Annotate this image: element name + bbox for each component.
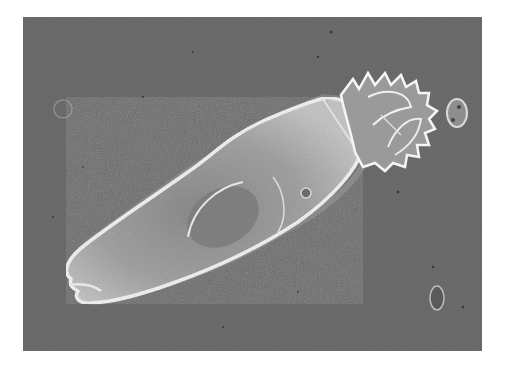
micrograph-frame (23, 17, 482, 351)
micrograph-image (23, 17, 482, 351)
head-tip (447, 99, 467, 127)
small-particle (430, 286, 444, 310)
